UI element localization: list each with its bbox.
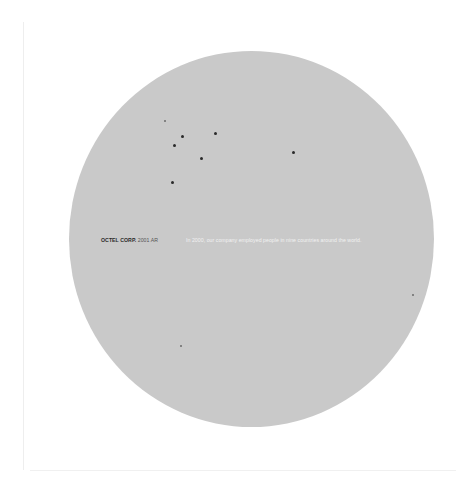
country-dot-icon [171, 181, 174, 184]
country-dot-icon [292, 151, 295, 154]
page-edge-left [23, 22, 24, 470]
country-dot-icon [173, 144, 176, 147]
country-dot-icon [214, 132, 217, 135]
page-edge-bottom [30, 470, 456, 471]
country-dot-icon [412, 294, 415, 297]
country-dot-icon [181, 135, 184, 138]
country-dot-icon [164, 120, 167, 123]
country-dot-icon [180, 345, 183, 348]
country-dot-icon [200, 157, 203, 160]
brand-name: OCTEL CORP. [101, 237, 136, 243]
statement-text: In 2000, our company employed people in … [186, 236, 361, 244]
report-label: 2001 AR [138, 237, 158, 243]
brand-caption: OCTEL CORP. 2001 AR [101, 236, 158, 244]
